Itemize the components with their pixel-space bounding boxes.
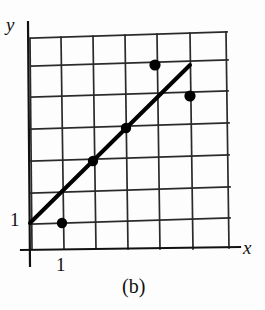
grid-line-horizontal [31,155,229,161]
x-axis [21,247,240,250]
data-point [121,123,131,133]
figure-caption: (b) [122,276,145,296]
x-axis-label: x [243,238,251,257]
x-axis-tick-label-1: 1 [56,255,66,274]
y-axis-tick-label-1: 1 [10,210,20,229]
figure-panel-b: y x 1 1 (b) [0,0,265,310]
grid-lines [30,32,230,249]
graph-canvas [0,0,265,310]
grid-line-vertical [125,35,128,249]
grid-line-vertical [226,32,229,248]
data-point [184,90,195,101]
grid-line-vertical [61,37,64,249]
data-point [57,218,67,228]
y-axis-label: y [6,15,14,34]
data-point [88,156,98,166]
axes [21,22,240,266]
grid-line-horizontal [31,91,228,97]
fitted-line [30,65,190,223]
grid-line-vertical [93,36,96,249]
data-point [149,59,160,70]
